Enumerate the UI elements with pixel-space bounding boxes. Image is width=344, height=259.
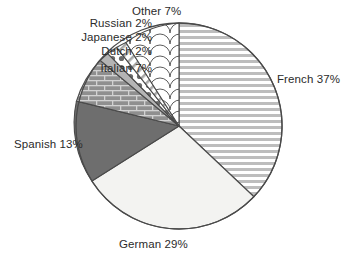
pie-label-russian: Russian 2% (6, 17, 152, 30)
pie-label-japanese: Japanese 2% (6, 31, 152, 44)
pie-label-dutch: Dutch 2% (6, 45, 152, 58)
pie-label-stack: Russian 2% Japanese 2% Dutch 2% Italian … (6, 17, 152, 76)
pie-label-italian: Italian 7% (6, 62, 152, 75)
pie-chart: Russian 2% Japanese 2% Dutch 2% Italian … (0, 0, 344, 259)
pie-label-other: Other 7% (132, 5, 181, 18)
pie-label-german: German 29% (119, 238, 188, 251)
pie-label-spanish: Spanish 13% (14, 138, 83, 151)
pie-label-french: French 37% (277, 73, 340, 86)
